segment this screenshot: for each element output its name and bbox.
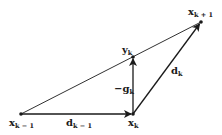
label-sub: k + 1 (194, 11, 213, 19)
label-x-k-plus-1: xk + 1 (188, 7, 213, 19)
label-y-k: yk (122, 45, 132, 57)
point-x-k-plus-1 (199, 20, 203, 24)
point-x-k-minus-1 (19, 112, 23, 116)
label-d-k-minus-1: dk − 1 (66, 118, 92, 130)
point-x-k (131, 112, 135, 116)
label-sub: k (129, 88, 134, 96)
label-base: −g (114, 83, 129, 94)
label-sub: k − 1 (15, 122, 34, 130)
label-sub: k (178, 70, 183, 78)
label-neg-g-k: −gk (114, 84, 134, 96)
label-base: d (171, 65, 178, 76)
label-sub: k − 1 (73, 122, 92, 130)
arrow-d-k (133, 24, 200, 114)
label-x-k-minus-1: xk − 1 (9, 118, 34, 130)
label-d-k: dk (171, 66, 183, 78)
label-x-k: xk (128, 118, 138, 130)
label-base: d (66, 117, 73, 128)
label-sub: k (128, 49, 133, 57)
label-sub: k (134, 122, 139, 130)
diagram-canvas: xk − 1 dk − 1 xk −gk yk dk xk + 1 (0, 0, 222, 135)
diagram-svg (0, 0, 222, 135)
